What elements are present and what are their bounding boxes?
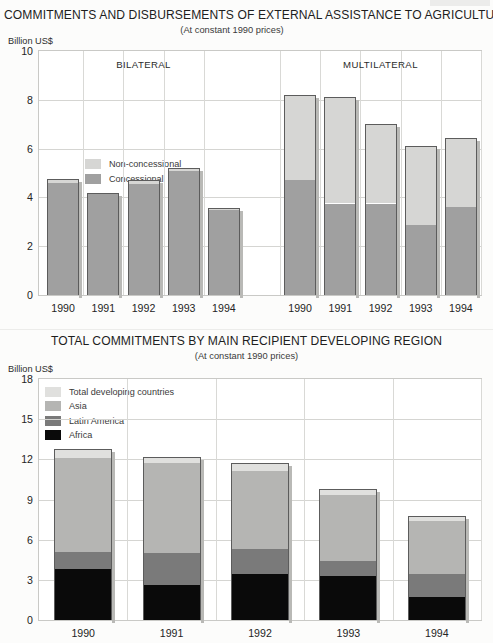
bar-1992 bbox=[365, 51, 397, 295]
gridline-vertical bbox=[216, 379, 217, 620]
bar-1994 bbox=[208, 51, 240, 295]
bar-segment-concessional bbox=[284, 180, 316, 295]
group-label-bilateral: BILATERAL bbox=[116, 59, 171, 70]
bar-segment-latin-america bbox=[408, 574, 466, 597]
bar-1992 bbox=[128, 51, 160, 295]
bar-segment-africa bbox=[231, 574, 289, 620]
y-axis-tick-label: 15 bbox=[21, 414, 33, 425]
bar-drop-shadow bbox=[79, 182, 82, 298]
y-axis-tick-label: 6 bbox=[27, 534, 33, 545]
bar-1992 bbox=[231, 379, 289, 620]
bar-segment-total-developing-countries bbox=[54, 449, 112, 458]
bar-segment-total-developing-countries bbox=[319, 489, 377, 496]
x-axis-tick-label: 1993 bbox=[172, 302, 196, 314]
y-axis-tick-label: 9 bbox=[27, 494, 33, 505]
bar-1993 bbox=[319, 379, 377, 620]
bar-segment-africa bbox=[408, 597, 466, 620]
bar-1990 bbox=[284, 51, 316, 295]
bar-1991 bbox=[87, 51, 119, 295]
chart2-title: TOTAL COMMITMENTS BY MAIN RECIPIENT DEVE… bbox=[0, 334, 493, 348]
bar-segment-total-developing-countries bbox=[408, 516, 466, 521]
gridline-vertical bbox=[481, 379, 482, 620]
bar-segment-concessional bbox=[405, 225, 437, 295]
x-axis-tick-label: 1993 bbox=[337, 627, 361, 639]
bar-segment-non-concessional bbox=[128, 180, 160, 184]
gridline-vertical bbox=[393, 379, 394, 620]
gridline-vertical bbox=[360, 51, 361, 295]
gridline-vertical bbox=[123, 51, 124, 295]
bar-1994 bbox=[445, 51, 477, 295]
y-axis-tick-label: 0 bbox=[27, 290, 33, 301]
gridline-vertical bbox=[441, 51, 442, 295]
bar-1991 bbox=[143, 379, 201, 620]
bar-drop-shadow bbox=[160, 183, 163, 298]
x-axis-tick-label: 1990 bbox=[288, 302, 312, 314]
bar-drop-shadow bbox=[112, 452, 115, 623]
bar-drop-shadow bbox=[397, 127, 400, 298]
bar-segment-concessional bbox=[168, 171, 200, 295]
x-axis-tick-label: 1990 bbox=[71, 627, 95, 639]
chart2-subtitle: (At constant 1990 prices) bbox=[0, 351, 493, 361]
bar-1993 bbox=[168, 51, 200, 295]
bar-drop-shadow bbox=[466, 519, 469, 623]
bar-segment-non-concessional bbox=[445, 138, 477, 208]
bar-segment-latin-america bbox=[143, 553, 201, 585]
x-axis-tick-label: 1991 bbox=[160, 627, 184, 639]
x-axis-tick-label: 1993 bbox=[409, 302, 433, 314]
bar-drop-shadow bbox=[201, 460, 204, 623]
bar-1994 bbox=[408, 379, 466, 620]
gridline-vertical bbox=[280, 51, 281, 295]
y-axis-tick-label: 4 bbox=[27, 192, 33, 203]
bar-drop-shadow bbox=[240, 211, 243, 298]
x-axis-tick-label: 1992 bbox=[132, 302, 156, 314]
bar-drop-shadow bbox=[377, 492, 380, 623]
chart1-plot-area: Non-concessional Concessional 0246810199… bbox=[38, 50, 482, 296]
y-axis-tick-label: 18 bbox=[21, 374, 33, 385]
bar-drop-shadow bbox=[119, 196, 122, 298]
x-axis-tick-label: 1994 bbox=[212, 302, 236, 314]
bar-segment-concessional bbox=[324, 204, 356, 296]
bar-drop-shadow bbox=[289, 466, 292, 623]
bar-segment-concessional bbox=[47, 183, 79, 295]
gridline-vertical bbox=[401, 51, 402, 295]
bar-segment-latin-america bbox=[319, 561, 377, 576]
gridline-vertical bbox=[127, 379, 128, 620]
gridline-vertical bbox=[304, 379, 305, 620]
bar-segment-non-concessional bbox=[208, 208, 240, 209]
y-axis-tick-label: 10 bbox=[21, 46, 33, 57]
bar-1990 bbox=[54, 379, 112, 620]
bar-drop-shadow bbox=[477, 141, 480, 298]
bar-segment-latin-america bbox=[54, 552, 112, 569]
chart1-subtitle: (At constant 1990 prices) bbox=[22, 25, 442, 35]
chart-panel-commitments-disbursements: COMMITMENTS AND DISBURSEMENTS OF EXTERNA… bbox=[0, 0, 493, 330]
bar-segment-non-concessional bbox=[405, 146, 437, 225]
y-axis-tick-label: 3 bbox=[27, 575, 33, 586]
bar-segment-total-developing-countries bbox=[143, 457, 201, 464]
bar-drop-shadow bbox=[356, 100, 359, 298]
gridline-vertical bbox=[83, 51, 84, 295]
bar-segment-africa bbox=[54, 569, 112, 620]
bar-segment-asia bbox=[143, 463, 201, 553]
x-axis-tick-label: 1990 bbox=[51, 302, 75, 314]
bar-1991 bbox=[324, 51, 356, 295]
group-label-multilateral: MULTILATERAL bbox=[343, 59, 418, 70]
x-axis-tick-label: 1994 bbox=[425, 627, 449, 639]
x-axis-tick-label: 1992 bbox=[369, 302, 393, 314]
bar-segment-concessional bbox=[128, 184, 160, 295]
bar-segment-total-developing-countries bbox=[231, 463, 289, 471]
x-axis-tick-label: 1991 bbox=[92, 302, 116, 314]
bar-segment-asia bbox=[408, 521, 466, 575]
gridline-vertical bbox=[164, 51, 165, 295]
bar-drop-shadow bbox=[316, 98, 319, 298]
bar-segment-asia bbox=[54, 458, 112, 552]
bar-segment-africa bbox=[319, 576, 377, 620]
bar-segment-non-concessional bbox=[47, 179, 79, 183]
bar-segment-asia bbox=[319, 495, 377, 561]
y-axis-tick-label: 2 bbox=[27, 241, 33, 252]
bar-segment-concessional bbox=[208, 210, 240, 295]
figure-page: COMMITMENTS AND DISBURSEMENTS OF EXTERNA… bbox=[0, 0, 493, 643]
bar-segment-non-concessional bbox=[87, 193, 119, 194]
y-axis-tick-label: 6 bbox=[27, 143, 33, 154]
bar-segment-non-concessional bbox=[168, 168, 200, 170]
y-axis-tick-label: 12 bbox=[21, 454, 33, 465]
